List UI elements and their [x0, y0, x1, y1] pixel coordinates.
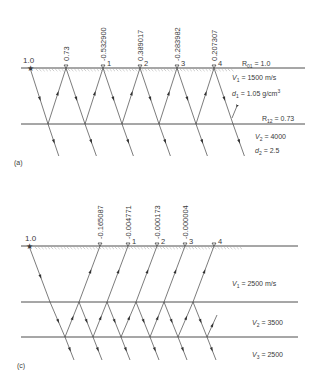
- ray-arrow-icon: [85, 319, 89, 324]
- receiver-amplitude: -0.004771: [124, 205, 133, 239]
- ray-segment: [159, 68, 177, 124]
- source-star-icon: ★: [27, 64, 34, 73]
- ray-arrow-icon: [237, 139, 241, 144]
- receiver-amplitude: -0.532900: [99, 27, 108, 61]
- ray-arrow-icon: [56, 319, 60, 324]
- receiver-3: -0.2839823: [173, 27, 186, 68]
- ray-arrow-icon: [153, 347, 157, 352]
- receiver-2: 0.3890172: [136, 30, 149, 68]
- ray-segment: [164, 246, 185, 302]
- caption-c: (c): [17, 362, 25, 370]
- ray-arrow-icon: [96, 347, 100, 352]
- receiver-number: 4: [218, 59, 222, 68]
- ray-arrow-icon: [202, 269, 206, 274]
- ray-arrow-icon: [89, 139, 93, 144]
- panel-a: 0.73-0.53290010.3890172-0.28398230.20730…: [14, 27, 305, 167]
- receiver-4: 0.2073074: [210, 30, 223, 68]
- ray-arrow-icon: [210, 322, 214, 327]
- ray-segment: [48, 68, 66, 124]
- ray-arrow-icon: [200, 139, 204, 144]
- receiver-0: 0.73: [62, 46, 71, 68]
- ray-arrow-icon: [181, 347, 185, 352]
- seismic-ray-diagram: 0.73-0.53290010.3890172-0.28398230.20730…: [0, 0, 324, 385]
- ray-segment: [30, 68, 48, 124]
- receivers-c: -0.165087-0.0047711-0.0001732-0.00000434: [96, 205, 223, 246]
- label-v3-c: V3 = 2500: [252, 351, 283, 360]
- ray-arrow-icon: [71, 315, 75, 320]
- transmitted-up-arrow-a: [232, 106, 237, 118]
- ray-arrow-icon: [199, 319, 203, 324]
- ray-arrow-icon: [38, 274, 42, 279]
- ray-arrow-icon: [38, 96, 42, 101]
- ray-arrow-icon: [170, 319, 174, 324]
- ray-arrow-icon: [93, 91, 97, 96]
- receiver-number: 2: [144, 59, 148, 68]
- receiver-amplitude: 0.207307: [210, 30, 219, 61]
- receiver-amplitude: -0.165087: [96, 205, 105, 239]
- label-v1-a: V1 = 1500 m/s: [232, 74, 277, 83]
- ray-arrow-icon: [124, 347, 128, 352]
- ray-arrow-icon: [163, 139, 167, 144]
- receiver-number: 3: [181, 59, 185, 68]
- ray-arrow-icon: [74, 96, 78, 101]
- label-v2-c: V2 = 3500: [252, 319, 283, 328]
- ray-arrow-icon: [204, 91, 208, 96]
- ray-segment: [214, 68, 233, 124]
- receiver-amplitude: -0.283982: [173, 27, 182, 61]
- receiver-amplitude: -0.000004: [181, 205, 190, 239]
- ray-segment: [196, 68, 214, 124]
- ray-arrow-icon: [173, 269, 177, 274]
- receiver-amplitude: 0.389017: [136, 30, 145, 61]
- ray-arrow-icon: [185, 96, 189, 101]
- caption-a: (a): [14, 159, 23, 167]
- ray-arrow-icon: [184, 315, 188, 320]
- ray-segment: [122, 68, 140, 124]
- ray-segment: [66, 68, 85, 124]
- panel-c: -0.165087-0.0047711-0.0001732-0.00000434…: [17, 205, 298, 370]
- ray-arrow-icon: [222, 96, 226, 101]
- receiver-1: -0.0047711: [124, 205, 137, 246]
- ray-segment: [29, 246, 50, 302]
- receiver-number: 4: [218, 237, 222, 246]
- label-v1-c: V1 = 2500 m/s: [232, 280, 277, 289]
- receiver-amplitude: 0.73: [62, 46, 71, 61]
- ray-arrow-icon: [130, 91, 134, 96]
- label-d2: d2 = 2.5: [255, 147, 280, 156]
- ray-arrow-icon: [142, 319, 146, 324]
- receiver-amplitude: -0.000173: [153, 205, 162, 239]
- receiver-1: -0.5329001: [99, 27, 112, 68]
- ray-arrow-icon: [127, 315, 131, 320]
- receiver-number: 1: [107, 59, 111, 68]
- receiver-2: -0.0001732: [153, 205, 166, 246]
- surface-hatch-c: [35, 247, 242, 249]
- ray-arrow-icon: [148, 96, 152, 101]
- ray-segment: [107, 246, 128, 302]
- ray-paths-c: [29, 246, 217, 360]
- ray-arrow-icon: [116, 269, 120, 274]
- ray-segment: [193, 246, 214, 302]
- ray-arrow-icon: [113, 319, 117, 324]
- ray-segment: [85, 68, 103, 124]
- ray-arrow-icon: [68, 347, 72, 352]
- receiver-number: 3: [189, 237, 193, 246]
- ray-arrow-icon: [99, 315, 103, 320]
- ray-arrow-icon: [56, 91, 60, 96]
- ray-arrow-icon: [210, 347, 214, 352]
- label-v2-a: V2 = 4000: [255, 133, 286, 142]
- receiver-0: -0.165087: [96, 205, 105, 246]
- receiver-4: 4: [212, 237, 222, 246]
- label-d1: d1 = 1.05 g/cm3: [232, 88, 280, 99]
- ray-segment: [103, 68, 122, 124]
- receiver-number: 1: [132, 237, 136, 246]
- label-r12: R12 = 0.73: [262, 115, 294, 124]
- ray-segment: [140, 68, 159, 124]
- receiver-3: -0.0000043: [181, 205, 194, 246]
- ray-arrow-icon: [52, 139, 56, 144]
- ray-arrow-icon: [126, 139, 130, 144]
- ray-paths-a: [30, 68, 244, 156]
- receiver-number: 2: [161, 237, 165, 246]
- source-star-icon: ★: [26, 242, 33, 251]
- ray-arrow-icon: [167, 91, 171, 96]
- ray-arrow-icon: [111, 96, 115, 101]
- ray-arrow-icon: [156, 315, 160, 320]
